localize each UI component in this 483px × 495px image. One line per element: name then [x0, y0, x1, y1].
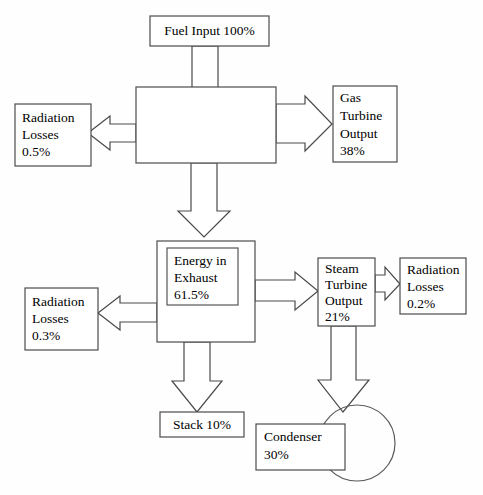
radiation-losses-lower-line-2: Losses [32, 311, 69, 326]
radiation-losses-steam-value: 0.2% [407, 296, 435, 311]
condenser-box[interactable]: Condenser 30% [256, 424, 345, 470]
arrow-exhaust-to-stack [172, 342, 222, 412]
radiation-losses-lower-value: 0.3% [32, 328, 60, 343]
radiation-losses-steam-line-2: Losses [407, 279, 444, 294]
gas-turbine-output-line-2: Turbine [340, 108, 382, 123]
energy-in-exhaust-box[interactable]: Energy in Exhaust 61.5% [167, 248, 238, 305]
stack-box[interactable]: Stack 10% [160, 412, 244, 437]
radiation-losses-upper-box[interactable]: Radiation Losses 0.5% [15, 104, 91, 166]
steam-turbine-output-line-2: Turbine [325, 277, 367, 292]
radiation-losses-steam-box[interactable]: Radiation Losses 0.2% [400, 258, 466, 314]
energy-in-exhaust-line-2: Exhaust [174, 270, 218, 285]
radiation-losses-lower-line-1: Radiation [32, 294, 85, 309]
radiation-losses-lower-box[interactable]: Radiation Losses 0.3% [25, 288, 98, 350]
stack-label: Stack 10% [173, 417, 231, 432]
condenser-label: Condenser [264, 429, 322, 444]
arrow-exhaust-to-radiation-losses-lower [98, 296, 157, 330]
condenser-value: 30% [264, 447, 289, 462]
gas-turbine-output-line-1: Gas [340, 90, 361, 105]
gas-turbine-output-box[interactable]: Gas Turbine Output 38% [333, 86, 397, 162]
arrow-steam-turbine-to-condenser [318, 326, 369, 412]
arrow-chamber-to-energy-in-exhaust [178, 163, 230, 237]
steam-turbine-output-value: 21% [325, 309, 350, 324]
energy-in-exhaust-line-1: Energy in [174, 253, 227, 268]
radiation-losses-upper-line-2: Losses [22, 127, 59, 142]
arrow-chamber-to-gas-turbine-output [276, 96, 332, 151]
energy-flow-diagram: Fuel Input 100% Radiation Losses 0.5% Ga… [0, 0, 483, 495]
gas-turbine-output-value: 38% [340, 143, 365, 158]
fuel-input-label: Fuel Input 100% [164, 23, 255, 38]
energy-in-exhaust-value: 61.5% [174, 287, 209, 302]
arrow-chamber-to-radiation-losses-upper [88, 116, 136, 150]
arrow-steam-turbine-to-radiation-losses [375, 267, 400, 300]
steam-turbine-output-box[interactable]: Steam Turbine Output 21% [318, 258, 375, 326]
arrow-exhaust-to-steam-turbine-output [255, 272, 318, 310]
radiation-losses-steam-line-1: Radiation [407, 262, 460, 277]
diagram-canvas: Fuel Input 100% Radiation Losses 0.5% Ga… [0, 0, 483, 495]
steam-turbine-output-line-3: Output [325, 293, 363, 308]
radiation-losses-upper-value: 0.5% [22, 144, 50, 159]
gas-turbine-output-line-3: Output [340, 126, 378, 141]
gas-turbine-chamber-box[interactable] [136, 87, 276, 163]
fuel-input-box[interactable]: Fuel Input 100% [150, 16, 269, 46]
steam-turbine-output-line-1: Steam [325, 261, 359, 276]
radiation-losses-upper-line-1: Radiation [22, 110, 75, 125]
